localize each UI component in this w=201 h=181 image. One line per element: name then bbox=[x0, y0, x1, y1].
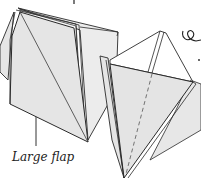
large-flap-label: Large flap bbox=[12, 150, 74, 164]
loop-arrow-icon bbox=[183, 31, 201, 61]
left-folded-model bbox=[0, 8, 118, 142]
origami-diagram: Large flap bbox=[0, 0, 201, 181]
